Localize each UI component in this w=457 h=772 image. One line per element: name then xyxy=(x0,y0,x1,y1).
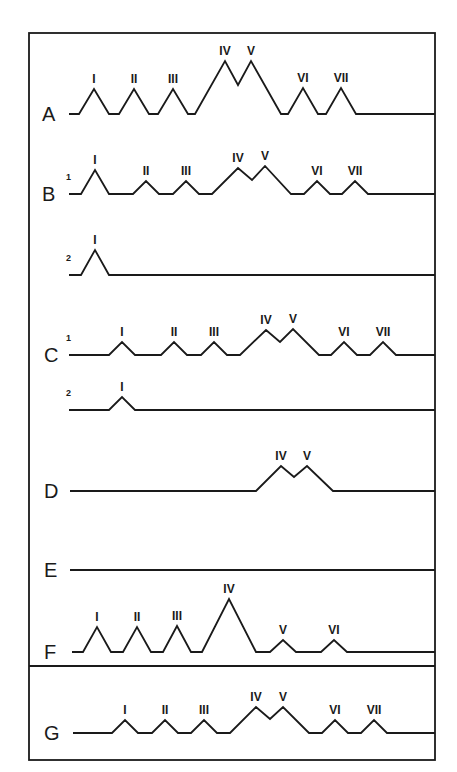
trace-row-a: AIIIIIIIVVVIVII xyxy=(42,44,435,125)
peak-label: III xyxy=(209,325,219,339)
trace-row-g: GIIIIIIIVVVIVII xyxy=(44,690,435,744)
trace-row-c1: C1IIIIIIIVVVIVII xyxy=(44,312,435,366)
trace-row-b2: 2I xyxy=(66,233,435,275)
sub-trace-index: 1 xyxy=(66,333,71,343)
peak-label: I xyxy=(120,380,123,394)
row-label: F xyxy=(44,641,56,663)
peak-label: II xyxy=(143,164,150,178)
peak-label: I xyxy=(123,703,126,717)
peak-label: VI xyxy=(329,703,340,717)
peak-label: VI xyxy=(338,325,349,339)
peak-label: V xyxy=(247,44,255,58)
row-label: E xyxy=(44,559,57,581)
peak-label: III xyxy=(199,703,209,717)
trace-row-d: DIVV xyxy=(44,449,435,502)
row-label: G xyxy=(44,722,60,744)
peak-label: VII xyxy=(334,71,349,85)
peak-label: VI xyxy=(328,623,339,637)
peak-label: II xyxy=(131,72,138,86)
peak-label: V xyxy=(303,449,311,463)
figure-frame xyxy=(29,33,435,760)
trace-line xyxy=(72,599,435,652)
peak-label: IV xyxy=(250,690,261,704)
peak-label: V xyxy=(279,690,287,704)
trace-row-f: FIIIIIIIVVVI xyxy=(44,582,435,663)
peak-label: I xyxy=(93,153,96,167)
peak-label: IV xyxy=(219,44,230,58)
peak-label: I xyxy=(92,72,95,86)
peak-label: IV xyxy=(260,313,271,327)
peak-label: VII xyxy=(367,703,382,717)
trace-line xyxy=(69,61,435,114)
trace-row-b1: B1IIIIIIIVVVIVII xyxy=(42,149,435,205)
peak-label: II xyxy=(162,703,169,717)
peak-label: I xyxy=(93,233,96,247)
peak-label: IV xyxy=(275,449,286,463)
trace-line xyxy=(69,166,435,194)
peak-label: IV xyxy=(232,151,243,165)
row-label: A xyxy=(42,103,56,125)
peak-label: V xyxy=(261,149,269,163)
peak-label: II xyxy=(171,325,178,339)
row-label: D xyxy=(44,480,58,502)
trace-row-e: E xyxy=(44,559,435,581)
peak-label: I xyxy=(95,610,98,624)
peak-label: III xyxy=(168,72,178,86)
peak-label: V xyxy=(289,312,297,326)
peak-label: VII xyxy=(348,164,363,178)
peak-label: III xyxy=(181,164,191,178)
trace-line xyxy=(69,250,435,275)
row-label: B xyxy=(42,183,55,205)
peak-label: II xyxy=(134,610,141,624)
peak-label: VII xyxy=(376,325,391,339)
peak-label: VI xyxy=(311,164,322,178)
outer-border xyxy=(29,33,435,760)
peak-label: I xyxy=(120,325,123,339)
peak-label: IV xyxy=(223,582,234,596)
sub-trace-index: 2 xyxy=(66,388,71,398)
peak-label: III xyxy=(172,609,182,623)
trace-line xyxy=(70,466,435,491)
sub-trace-index: 1 xyxy=(66,172,71,182)
trace-line xyxy=(69,397,435,410)
peak-label: VI xyxy=(297,71,308,85)
peak-label: V xyxy=(279,623,287,637)
sub-trace-index: 2 xyxy=(66,253,71,263)
trace-rows: AIIIIIIIVVVIVIIB1IIIIIIIVVVIVII2IC1IIIII… xyxy=(42,44,435,744)
trace-row-c2: 2I xyxy=(66,380,435,410)
row-label: C xyxy=(44,344,58,366)
chromatogram-figure: AIIIIIIIVVVIVIIB1IIIIIIIVVVIVII2IC1IIIII… xyxy=(0,0,457,772)
